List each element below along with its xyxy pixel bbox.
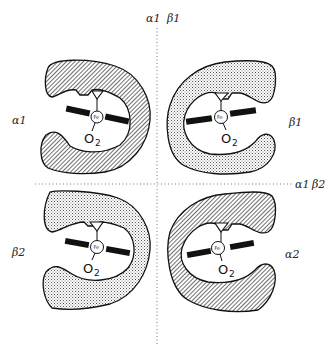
vertical-axis-label-b: β1 [166, 12, 180, 25]
svg-text:Fe: Fe [94, 244, 100, 250]
subunit-beta1: Fe O 2 β1 [167, 61, 302, 174]
histidine-wedge [92, 91, 103, 99]
svg-text:2: 2 [229, 269, 235, 279]
heme-bar-right [105, 114, 130, 125]
heme-bar-left [66, 106, 91, 117]
subunit-alpha1: Fe O 2 α1 [12, 60, 150, 173]
svg-text:Fe: Fe [94, 114, 100, 120]
svg-text:2: 2 [95, 138, 101, 148]
vertical-axis-label-a: α1 [146, 12, 160, 25]
oxygen-label: O [83, 261, 93, 276]
oxygen-label: O [218, 262, 228, 277]
heme-bar-right [230, 107, 257, 117]
svg-text:Fe: Fe [217, 114, 223, 120]
oxygen-label: O [221, 131, 231, 146]
subunit-beta2: Fe O 2 β2 [11, 191, 150, 309]
subunit-label: α1 [12, 114, 26, 127]
subunit-label: β1 [288, 116, 302, 129]
subunit-label: β2 [11, 246, 25, 259]
hemoglobin-diagram: α1 β1 α1 β2 Fe O 2 α1 Fe O 2 β1 [0, 0, 335, 357]
svg-text:2: 2 [232, 138, 238, 148]
oxygen-label: O [84, 131, 94, 146]
heme-bar-right [106, 246, 131, 256]
svg-text:2: 2 [94, 268, 100, 278]
heme-bar-left [65, 238, 90, 248]
subunit-label: α2 [285, 248, 299, 261]
subunit-alpha2: Fe O 2 α2 [168, 192, 300, 312]
heme-bar-left [187, 248, 212, 258]
svg-text:Fe: Fe [215, 245, 221, 251]
heme-bar-right [230, 240, 255, 250]
heme-bar-left [186, 115, 213, 125]
horizontal-axis-label-b: β2 [311, 178, 325, 191]
horizontal-axis-label-a: α1 [295, 178, 309, 191]
